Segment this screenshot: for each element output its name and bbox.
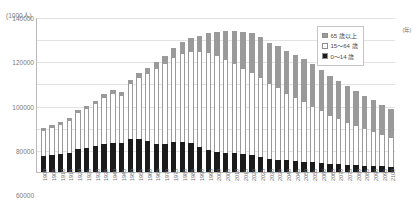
- x-axis-tick: 1965: [151, 174, 160, 214]
- bar-segment-65-and-over: [180, 42, 185, 54]
- bar-segment-0-to-14: [136, 139, 141, 172]
- bar-column: [117, 18, 126, 172]
- bar-column: [178, 18, 187, 172]
- stacked-bar: [93, 101, 98, 172]
- bar-segment-65-and-over: [249, 33, 254, 73]
- legend-swatch-15-to-64-icon: [322, 43, 328, 49]
- bar-segment-15-to-64: [49, 128, 54, 155]
- stacked-bar: [223, 31, 228, 172]
- x-axis-tick: 1950: [125, 174, 134, 214]
- stacked-bar: [371, 100, 376, 172]
- x-axis-tick-label: 2100: [390, 169, 396, 181]
- bar-segment-15-to-64: [197, 52, 202, 147]
- bar-segment-0-to-14: [162, 144, 167, 172]
- bar-segment-15-to-64: [101, 98, 106, 144]
- bar-column: [65, 18, 74, 172]
- bar-column: [221, 18, 230, 172]
- bar-segment-15-to-64: [240, 69, 245, 155]
- x-axis-tick: 2060: [317, 174, 326, 214]
- bar-column: [56, 18, 65, 172]
- bar-segment-15-to-64: [214, 56, 219, 151]
- bar-segment-65-and-over: [371, 100, 376, 132]
- legend-label-15-to-64: 15～64 歳: [331, 41, 358, 50]
- x-axis-tick: 2075: [343, 174, 352, 214]
- x-axis-tick: 2020: [247, 174, 256, 214]
- stacked-bar: [345, 86, 350, 172]
- bar-segment-0-to-14: [145, 141, 150, 172]
- legend-item-mid: 15～64 歳: [322, 41, 358, 50]
- bar-segment-15-to-64: [336, 119, 341, 164]
- bar-segment-65-and-over: [327, 76, 332, 116]
- bar-column: [274, 18, 283, 172]
- x-axis-tick: 2050: [299, 174, 308, 214]
- bar-segment-15-to-64: [128, 84, 133, 139]
- bar-segment-15-to-64: [284, 94, 289, 160]
- bar-segment-65-and-over: [162, 56, 167, 64]
- bar-segment-15-to-64: [310, 107, 315, 163]
- x-axis-tick: 1915: [64, 174, 73, 214]
- stacked-bar: [136, 73, 141, 172]
- bar-segment-65-and-over: [267, 43, 272, 84]
- stacked-bar: [388, 109, 393, 172]
- bar-column: [291, 18, 300, 172]
- x-axis-tick: 2100: [386, 174, 395, 214]
- bar-segment-15-to-64: [84, 109, 89, 148]
- bar-column: [230, 18, 239, 172]
- x-axis-tick: 1940: [108, 174, 117, 214]
- bar-segment-15-to-64: [371, 132, 376, 166]
- legend-swatch-65-and-over-icon: [322, 33, 328, 39]
- x-axis-labels: 1900190519101915192019251930193519401945…: [36, 174, 395, 214]
- y-axis-tick-label: 140000: [12, 15, 34, 22]
- x-axis-tick: 2095: [377, 174, 386, 214]
- x-axis-tick: 2010: [229, 174, 238, 214]
- bar-column: [282, 18, 291, 172]
- bar-segment-15-to-64: [345, 123, 350, 165]
- bar-segment-65-and-over: [223, 31, 228, 59]
- y-axis-tick-label: 60000: [16, 192, 34, 199]
- chart-legend: 65 歳以上 15～64 歳 0～14 歳: [317, 26, 364, 66]
- stacked-bar: [110, 90, 115, 172]
- stacked-bar: [49, 125, 54, 172]
- bar-column: [91, 18, 100, 172]
- bar-segment-65-and-over: [154, 62, 159, 69]
- bar-segment-65-and-over: [258, 37, 263, 78]
- y-axis-tick-label: 120000: [12, 59, 34, 66]
- bar-segment-0-to-14: [154, 144, 159, 172]
- bar-segment-15-to-64: [145, 74, 150, 141]
- x-axis-tick: 1945: [116, 174, 125, 214]
- bar-segment-65-and-over: [232, 31, 237, 63]
- bar-column: [48, 18, 57, 172]
- stacked-bar: [293, 55, 298, 172]
- stacked-bar: [379, 105, 384, 172]
- x-axis-tick: 1925: [82, 174, 91, 214]
- x-axis-tick: 1955: [134, 174, 143, 214]
- bar-segment-65-and-over: [206, 33, 211, 53]
- x-axis-tick: 1960: [142, 174, 151, 214]
- stacked-bar: [188, 38, 193, 172]
- bar-column: [195, 18, 204, 172]
- x-axis-tick: 1930: [90, 174, 99, 214]
- stacked-bar: [206, 33, 211, 172]
- bar-segment-0-to-14: [128, 139, 133, 172]
- bar-column: [39, 18, 48, 172]
- bar-segment-0-to-14: [110, 143, 115, 172]
- bar-segment-15-to-64: [119, 96, 124, 143]
- x-axis-tick: 2085: [360, 174, 369, 214]
- x-axis-tick: 2000: [212, 174, 221, 214]
- stacked-bar: [162, 56, 167, 172]
- bar-segment-65-and-over: [379, 105, 384, 135]
- bar-segment-15-to-64: [388, 138, 393, 167]
- x-axis-tick: 1935: [99, 174, 108, 214]
- stacked-bar: [284, 51, 289, 172]
- x-axis-tick: 2015: [238, 174, 247, 214]
- bar-segment-65-and-over: [310, 64, 315, 106]
- y-axis-tick-label: 100000: [12, 103, 34, 110]
- x-axis-tick: 2065: [325, 174, 334, 214]
- bar-segment-65-and-over: [345, 86, 350, 123]
- stacked-bar: [214, 32, 219, 172]
- stacked-bar: [240, 32, 245, 172]
- bar-segment-0-to-14: [180, 142, 185, 172]
- bar-segment-65-and-over: [188, 38, 193, 52]
- stacked-bar: [180, 42, 185, 172]
- bar-segment-15-to-64: [171, 58, 176, 142]
